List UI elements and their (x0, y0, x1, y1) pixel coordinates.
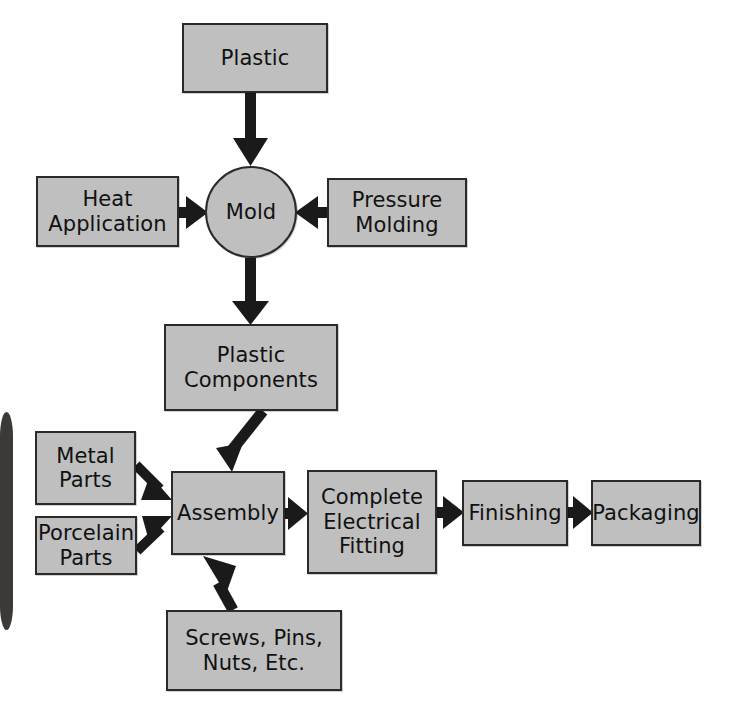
node-metal_parts[interactable]: Metal Parts (35, 431, 136, 505)
node-porcelain_parts[interactable]: Porcelain Parts (35, 516, 137, 575)
node-label-screws_pins: Screws, Pins, Nuts, Etc. (185, 626, 323, 675)
node-pressure_molding[interactable]: Pressure Molding (327, 178, 467, 247)
node-label-plastic: Plastic (221, 46, 290, 70)
node-label-complete_fitting: Complete Electrical Fitting (321, 485, 423, 558)
node-label-porcelain_parts: Porcelain Parts (38, 521, 134, 570)
node-heat_application[interactable]: Heat Application (36, 176, 179, 247)
node-label-metal_parts: Metal Parts (56, 444, 114, 493)
node-assembly[interactable]: Assembly (171, 471, 285, 555)
arrow-assembly-to-fitting (285, 497, 308, 530)
arrow-layer (0, 0, 739, 721)
node-finishing[interactable]: Finishing (462, 480, 568, 546)
node-label-packaging: Packaging (592, 501, 700, 525)
node-packaging[interactable]: Packaging (591, 480, 701, 546)
node-label-finishing: Finishing (468, 501, 561, 525)
node-label-plastic_components: Plastic Components (184, 343, 318, 392)
node-plastic_components[interactable]: Plastic Components (164, 324, 338, 411)
arrow-fitting-to-finishing (437, 496, 464, 529)
node-label-heat_application: Heat Application (48, 187, 166, 236)
arrow-pressure-to-mold (295, 196, 329, 229)
node-label-mold: Mold (226, 200, 277, 224)
node-label-assembly: Assembly (177, 501, 279, 525)
arrow-screws-to-assembly (203, 556, 236, 610)
arrow-mold-to-components (232, 258, 269, 325)
node-plastic[interactable]: Plastic (182, 23, 328, 93)
arrow-plastic-to-mold (233, 93, 268, 166)
arrow-heat-to-mold (178, 196, 208, 229)
flowchart-canvas: PlasticHeat ApplicationMoldPressure Mold… (0, 0, 739, 721)
arrow-porcelain-to-assembly (137, 516, 172, 551)
arrow-metal-to-assembly (136, 465, 172, 500)
scan-edge-artifact (0, 412, 13, 630)
node-screws_pins[interactable]: Screws, Pins, Nuts, Etc. (166, 610, 342, 691)
arrow-finishing-to-packaging (568, 496, 593, 529)
arrow-components-to-assembly (216, 411, 263, 472)
node-mold[interactable]: Mold (205, 166, 297, 258)
node-complete_fitting[interactable]: Complete Electrical Fitting (307, 470, 437, 574)
node-label-pressure_molding: Pressure Molding (352, 188, 442, 237)
